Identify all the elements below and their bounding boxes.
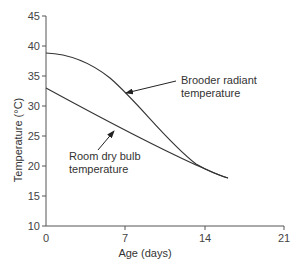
chart: 45 40 35 30 25 20 15 10 0 7 14 21 Age (d… bbox=[0, 0, 296, 268]
y-axis-title: Temperature (°C) bbox=[12, 98, 24, 182]
y-axis bbox=[42, 16, 46, 226]
room-label-line1: Room dry bulb bbox=[69, 150, 141, 162]
svg-text:45: 45 bbox=[28, 10, 40, 22]
svg-text:10: 10 bbox=[28, 220, 40, 232]
svg-text:0: 0 bbox=[43, 232, 49, 244]
svg-text:35: 35 bbox=[28, 70, 40, 82]
room-label-line2: temperature bbox=[69, 163, 128, 175]
brooder-arrow bbox=[126, 81, 176, 93]
x-axis-title: Age (days) bbox=[118, 247, 171, 259]
x-axis bbox=[46, 226, 284, 230]
svg-text:14: 14 bbox=[199, 232, 211, 244]
brooder-label-line2: temperature bbox=[181, 87, 240, 99]
svg-text:40: 40 bbox=[28, 40, 40, 52]
svg-text:25: 25 bbox=[28, 130, 40, 142]
svg-text:15: 15 bbox=[28, 190, 40, 202]
brooder-label-line1: Brooder radiant bbox=[181, 74, 257, 86]
x-tick-labels: 0 7 14 21 bbox=[43, 232, 290, 244]
svg-text:21: 21 bbox=[278, 232, 290, 244]
svg-text:20: 20 bbox=[28, 160, 40, 172]
room-arrow bbox=[98, 131, 114, 150]
svg-text:30: 30 bbox=[28, 100, 40, 112]
svg-text:7: 7 bbox=[122, 232, 128, 244]
y-tick-labels: 45 40 35 30 25 20 15 10 bbox=[28, 10, 40, 232]
